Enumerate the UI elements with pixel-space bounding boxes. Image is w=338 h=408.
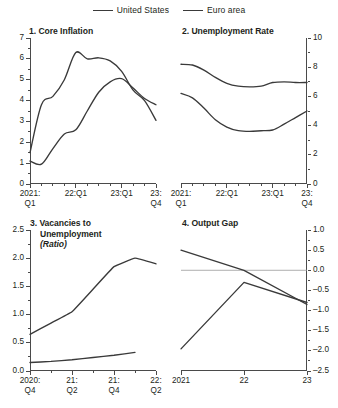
panel-1-x-tick-label: 22:Q1: [53, 189, 99, 199]
panel-4-y-tick: [308, 250, 312, 251]
panel-4-plot: 1.00.50.0–0.5–1.0–1.5–2.0–2.520212223: [181, 230, 307, 371]
panel-1-title-line: 1. Core Inflation: [29, 26, 93, 37]
panel-3-y-tick: [26, 314, 30, 315]
panel-2-y-minor-tick: [308, 111, 310, 112]
panel-2-x-tick: [295, 184, 296, 186]
panel-2-line-united-states: [181, 93, 307, 131]
panel-3-x-tick: [156, 371, 157, 375]
legend-label-united-states: United States: [117, 5, 169, 15]
panel-3-y-tick: [26, 342, 30, 343]
panel-2-x-tick: [307, 184, 308, 188]
panel-3-title-line: 3. Vacancies to: [30, 218, 101, 229]
panel-2-y-tick-label: 0: [313, 179, 318, 188]
legend-entry-united-states: United States: [93, 5, 169, 15]
panel-4-y-tick: [308, 330, 312, 331]
panel-grid: 1. Core Inflation 012345672021: Q122:Q12…: [0, 26, 338, 408]
panel-3-x-tick: [114, 371, 115, 375]
panel-1-x-tick: [75, 184, 76, 188]
panel-2-x-tick: [181, 184, 182, 188]
panel-4-y-tick-label: –1.0: [313, 305, 329, 314]
panel-4-y-tick: [308, 290, 312, 291]
panel-1-y-tick: [26, 163, 30, 164]
panel-1-y-tick: [26, 121, 30, 122]
panel-4-y-minor-tick: [308, 280, 310, 281]
panel-3-x-tick: [72, 371, 73, 375]
panel-2-y-tick: [308, 96, 312, 97]
panel-3-x-tick-label: 21: Q2: [49, 376, 95, 396]
chart-legend: United States Euro area: [0, 5, 338, 15]
panel-output-gap: 4. Output Gap 1.00.50.0–0.5–1.0–1.5–2.0–…: [168, 216, 338, 408]
panel-unemployment-rate: 2. Unemployment Rate 02468102021: Q122:Q…: [168, 26, 338, 220]
panel-1-y-tick-label: 3: [19, 116, 24, 125]
panel-core-inflation: 1. Core Inflation 012345672021: Q122:Q12…: [0, 26, 172, 220]
legend-line-swatch-euro: [183, 10, 203, 11]
panel-4-y-tick: [308, 371, 312, 372]
panel-3-y-tick: [26, 230, 30, 231]
panel-1-x-tick: [144, 184, 145, 186]
panel-2-y-tick: [308, 67, 312, 68]
panel-2-y-tick-label: 4: [313, 120, 318, 129]
panel-3-y-tick-label: 0.5: [13, 337, 24, 346]
panel-2-title-line: 2. Unemployment Rate: [182, 26, 274, 37]
panel-2-x-tick: [203, 184, 204, 186]
panel-2-line-euro-area: [181, 64, 307, 87]
panel-2-y-tick-label: 10: [313, 33, 322, 42]
panel-1-y-tick-label: 1: [19, 158, 24, 167]
panel-1-x-tick: [98, 184, 99, 186]
panel-4-x-tick-label: 23: [284, 376, 330, 386]
panel-2-y-tick-label: 6: [313, 91, 318, 100]
panel-4-y-tick-label: –0.5: [313, 285, 329, 294]
panel-2-x-tick: [249, 184, 250, 186]
panel-2-x-tick-label: 23: Q4: [284, 189, 330, 209]
panel-2-x-tick: [284, 184, 285, 186]
panel-4-series-layer: [181, 230, 307, 371]
panel-4-y-tick: [308, 350, 312, 351]
panel-1-x-tick: [156, 184, 157, 188]
panel-2-x-tick: [272, 184, 273, 188]
panel-1-y-tick: [26, 100, 30, 101]
panel-1-x-tick: [52, 184, 53, 186]
panel-1-x-tick: [64, 184, 65, 186]
panel-4-y-tick-label: 0.0: [313, 265, 324, 274]
panel-2-x-tick: [215, 184, 216, 186]
panel-4-line-euro-area: [181, 282, 307, 348]
panel-2-x-tick: [226, 184, 227, 188]
panel-3-series-layer: [30, 230, 156, 371]
panel-1-y-tick-label: 7: [19, 33, 24, 42]
panel-2-x-tick-label: 22:Q1: [204, 189, 250, 199]
panel-4-y-tick-label: –2.5: [313, 366, 329, 375]
legend-entry-euro-area: Euro area: [183, 5, 245, 15]
panel-4-y-tick-label: –1.5: [313, 325, 329, 334]
panel-3-y-tick: [26, 286, 30, 287]
panel-2-series-layer: [181, 38, 307, 184]
panel-2-x-tick: [192, 184, 193, 186]
panel-2-y-tick-label: 2: [313, 149, 318, 158]
panel-1-plot: 012345672021: Q122:Q123:Q123: Q4: [30, 38, 156, 184]
panel-4-y-minor-tick: [308, 320, 310, 321]
panel-3-line-euro-area: [30, 352, 135, 362]
panel-1-x-tick: [30, 184, 31, 188]
panel-3-y-tick-label: 2.5: [13, 225, 24, 234]
panel-2-x-tick: [238, 184, 239, 186]
panel-3-x-tick: [51, 371, 52, 373]
legend-label-euro-area: Euro area: [207, 5, 245, 15]
panel-1-x-tick-label: 2021: Q1: [7, 189, 53, 209]
panel-3-y-tick-label: 2.0: [13, 253, 24, 262]
panel-1-y-tick: [26, 58, 30, 59]
panel-4-y-tick: [308, 310, 312, 311]
panel-4-y-minor-tick: [308, 240, 310, 241]
panel-3-x-tick: [30, 371, 31, 375]
panel-2-y-minor-tick: [308, 169, 310, 170]
panel-2-x-tick-label: 2021: Q1: [158, 189, 204, 209]
panel-2-y-minor-tick: [308, 81, 310, 82]
panel-3-line-united-states: [30, 258, 156, 334]
panel-1-y-tick-label: 2: [19, 137, 24, 146]
panel-1-x-tick: [87, 184, 88, 186]
panel-4-y-tick: [308, 270, 312, 271]
panel-4-y-minor-tick: [308, 340, 310, 341]
panel-2-y-tick: [308, 154, 312, 155]
panel-4-y-tick: [308, 230, 312, 231]
panel-3-y-tick-label: 1.0: [13, 309, 24, 318]
panel-3-y-tick: [26, 258, 30, 259]
panel-2-y-tick: [308, 125, 312, 126]
